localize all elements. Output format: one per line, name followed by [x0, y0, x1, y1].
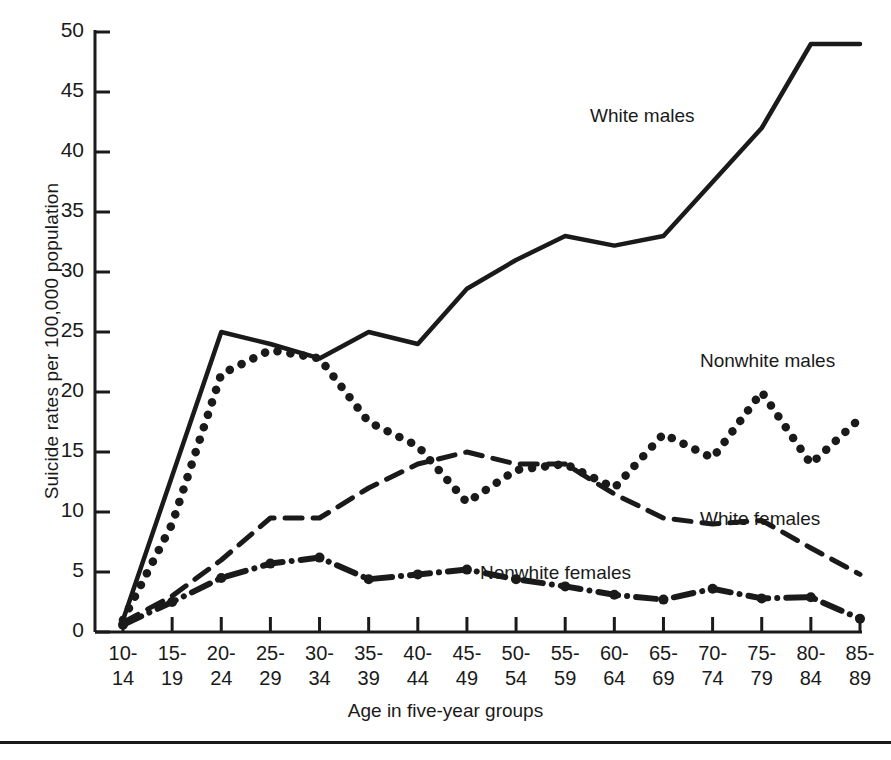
x-tick-label-line: 30- — [292, 641, 348, 666]
x-tick-label: 40-44 — [390, 641, 446, 691]
y-tick-label: 35 — [38, 198, 84, 222]
y-tick-label: 45 — [38, 78, 84, 102]
bottom-divider — [0, 741, 891, 744]
series-label-nonwhite-males: Nonwhite males — [700, 350, 835, 372]
x-tick-label: 55-59 — [537, 641, 593, 691]
y-tick-label: 50 — [38, 18, 84, 42]
x-tick-label: 45-49 — [439, 641, 495, 691]
data-series-group — [118, 44, 865, 630]
x-tick-label-line: 35- — [341, 641, 397, 666]
series-label-white-females: White females — [700, 508, 820, 530]
series-line-white-males — [123, 44, 860, 620]
x-tick-label-line: 55- — [537, 641, 593, 666]
x-tick-label-line: 34 — [292, 666, 348, 691]
x-tick-label-line: 79 — [734, 666, 790, 691]
x-tick-label-line: 64 — [586, 666, 642, 691]
x-tick-label: 70-74 — [685, 641, 741, 691]
x-tick-label-line: 65- — [635, 641, 691, 666]
y-tick-label: 0 — [38, 618, 84, 642]
x-tick-label: 60-64 — [586, 641, 642, 691]
y-axis-ticks — [95, 32, 110, 632]
series-marker — [757, 593, 767, 603]
y-tick-label: 10 — [38, 498, 84, 522]
series-marker — [462, 565, 472, 575]
x-tick-label: 25-29 — [242, 641, 298, 691]
x-tick-label-line: 14 — [95, 666, 151, 691]
x-tick-label-line: 54 — [488, 666, 544, 691]
x-axis-title: Age in five-year groups — [0, 700, 891, 722]
x-tick-label: 30-34 — [292, 641, 348, 691]
x-tick-label: 50-54 — [488, 641, 544, 691]
x-tick-label: 80-84 — [783, 641, 839, 691]
x-tick-label-line: 29 — [242, 666, 298, 691]
series-marker — [265, 559, 275, 569]
series-marker — [118, 620, 128, 630]
x-tick-label: 10-14 — [95, 641, 151, 691]
x-tick-label: 15-19 — [144, 641, 200, 691]
x-tick-label-line: 20- — [193, 641, 249, 666]
y-tick-label: 20 — [38, 378, 84, 402]
series-marker — [658, 595, 668, 605]
x-tick-label-line: 24 — [193, 666, 249, 691]
x-tick-label: 85-89 — [832, 641, 888, 691]
x-tick-label-line: 15- — [144, 641, 200, 666]
series-marker — [609, 590, 619, 600]
series-marker — [315, 553, 325, 563]
suicide-rates-figure: Suicide rates per 100,000 population 051… — [0, 0, 891, 760]
series-marker — [364, 574, 374, 584]
series-label-white-males: White males — [590, 105, 695, 127]
x-tick-label-line: 84 — [783, 666, 839, 691]
x-tick-label: 20-24 — [193, 641, 249, 691]
series-label-nonwhite-females: Nonwhite females — [480, 562, 631, 584]
y-tick-label: 5 — [38, 558, 84, 582]
axes — [95, 30, 862, 632]
x-tick-label-line: 44 — [390, 666, 446, 691]
y-tick-label: 15 — [38, 438, 84, 462]
x-tick-label-line: 40- — [390, 641, 446, 666]
x-tick-label-line: 89 — [832, 666, 888, 691]
x-tick-label-line: 74 — [685, 666, 741, 691]
series-marker — [806, 592, 816, 602]
x-tick-label: 75-79 — [734, 641, 790, 691]
x-tick-label-line: 85- — [832, 641, 888, 666]
x-tick-label-line: 25- — [242, 641, 298, 666]
y-tick-label: 30 — [38, 258, 84, 282]
x-tick-label-line: 69 — [635, 666, 691, 691]
y-tick-label: 25 — [38, 318, 84, 342]
series-marker — [167, 597, 177, 607]
x-tick-label-line: 49 — [439, 666, 495, 691]
x-tick-label: 65-69 — [635, 641, 691, 691]
series-marker — [855, 614, 865, 624]
x-tick-label-line: 10- — [95, 641, 151, 666]
y-tick-label: 40 — [38, 138, 84, 162]
series-marker — [708, 584, 718, 594]
x-tick-label-line: 50- — [488, 641, 544, 666]
x-tick-label-line: 60- — [586, 641, 642, 666]
x-tick-label-line: 80- — [783, 641, 839, 666]
series-marker — [413, 569, 423, 579]
x-tick-label: 35-39 — [341, 641, 397, 691]
x-axis-ticks — [123, 617, 860, 632]
series-marker — [216, 573, 226, 583]
x-tick-label-line: 59 — [537, 666, 593, 691]
x-tick-label-line: 39 — [341, 666, 397, 691]
x-tick-label-line: 19 — [144, 666, 200, 691]
x-tick-label-line: 75- — [734, 641, 790, 666]
x-tick-label-line: 45- — [439, 641, 495, 666]
x-tick-label-line: 70- — [685, 641, 741, 666]
